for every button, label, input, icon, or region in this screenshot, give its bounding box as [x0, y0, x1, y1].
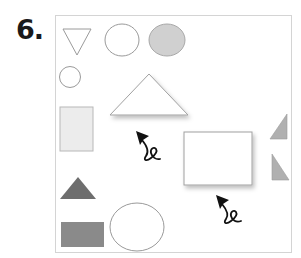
light-rectangle-shape	[60, 107, 93, 151]
right-triangle-top-shape	[270, 114, 287, 139]
inverted-triangle-shape	[63, 29, 91, 55]
large-circle-shape	[110, 203, 164, 251]
dark-triangle-shape	[60, 177, 96, 199]
shapes-canvas	[0, 0, 301, 258]
gray-ellipse-shape	[149, 24, 185, 56]
large-triangle-shape	[110, 74, 188, 115]
curly-arrow-icon	[136, 131, 160, 160]
circle-outline-shape	[105, 24, 139, 56]
right-triangle-bottom-shape	[272, 154, 289, 180]
dark-rectangle-shape	[61, 222, 104, 247]
white-rectangle-shape	[184, 132, 252, 185]
curly-arrow-icon	[216, 195, 241, 223]
small-circle-shape	[60, 67, 81, 88]
